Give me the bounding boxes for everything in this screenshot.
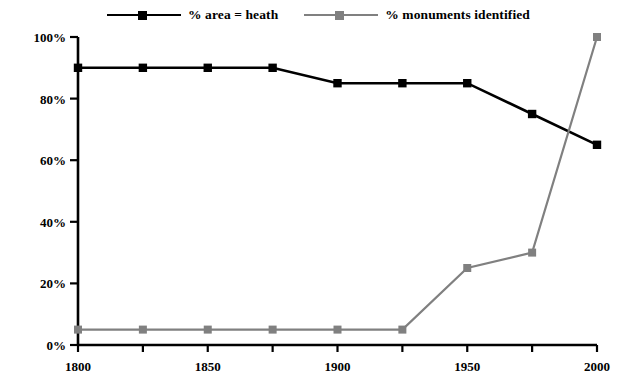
series-marker-0	[528, 110, 536, 118]
x-axis-tick-label: 2000	[584, 360, 610, 373]
series-marker-0	[268, 64, 276, 72]
x-axis-tick-label: 1850	[195, 360, 221, 373]
series-marker-0	[139, 64, 147, 72]
series-marker-1	[463, 264, 471, 272]
series-marker-0	[204, 64, 212, 72]
series-marker-0	[593, 141, 601, 149]
series-marker-1	[593, 33, 601, 41]
chart-container: % area = heath % monuments identified 0%…	[0, 0, 637, 384]
series-marker-1	[204, 326, 212, 334]
x-axis-tick-label: 1950	[454, 360, 480, 373]
y-axis-tick-label: 100%	[34, 31, 67, 44]
series-marker-1	[74, 326, 82, 334]
x-axis-tick-label: 1900	[325, 360, 351, 373]
series-marker-0	[463, 79, 471, 87]
x-axis-tick-label: 1800	[65, 360, 91, 373]
series-marker-1	[269, 326, 277, 334]
y-axis-tick-label: 80%	[40, 92, 66, 105]
series-marker-0	[74, 64, 82, 72]
series-marker-1	[528, 249, 536, 257]
y-axis-tick-label: 20%	[40, 277, 66, 290]
plot-svg	[0, 0, 637, 384]
plot-area	[0, 0, 637, 384]
series-marker-1	[334, 326, 342, 334]
series-marker-0	[333, 79, 341, 87]
series-marker-1	[398, 326, 406, 334]
series-marker-0	[398, 79, 406, 87]
series-marker-1	[139, 326, 147, 334]
y-axis-tick-label: 0%	[47, 339, 67, 352]
y-axis-tick-label: 40%	[40, 215, 66, 228]
y-axis-tick-label: 60%	[40, 154, 66, 167]
